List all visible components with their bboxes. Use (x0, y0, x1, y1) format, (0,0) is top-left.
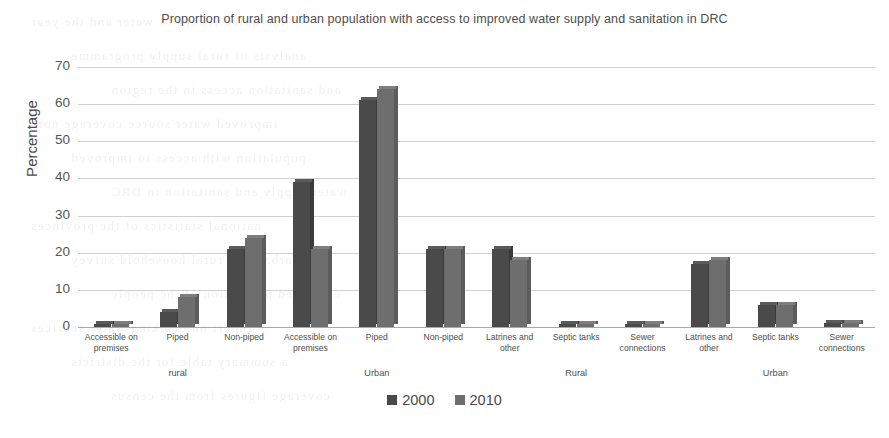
bar-top (446, 246, 463, 249)
bar-top (627, 321, 644, 324)
bar-2010 (178, 297, 195, 327)
bar-group (477, 67, 543, 327)
bar-group (211, 67, 277, 327)
x-group-label: Urban (676, 368, 875, 378)
bar-2000 (293, 182, 310, 327)
plot-area (78, 67, 875, 327)
bar-2000 (824, 323, 841, 327)
bar-face (112, 324, 129, 327)
bar-face (691, 264, 708, 327)
y-tick-label: 20 (24, 244, 70, 259)
bar-top (295, 179, 312, 182)
bar-face (709, 260, 726, 327)
x-group-label: Rural (477, 368, 676, 378)
x-tick-label: Sewer connections (809, 332, 875, 354)
bar-top (361, 97, 378, 100)
x-tick-label: Piped (344, 332, 410, 343)
bar-top (229, 246, 246, 249)
bar-2010 (377, 89, 394, 327)
bar-face (842, 323, 859, 327)
x-group-label: Urban (277, 368, 476, 378)
bar-2000 (94, 324, 111, 327)
bar-2010 (112, 324, 129, 327)
bar-2000 (691, 264, 708, 327)
bar-2010 (245, 238, 262, 327)
x-axis-category-labels: Accessible on premisesPipedNon-pipedAcce… (78, 332, 875, 372)
y-tick-label: 40 (24, 169, 70, 184)
bar-top (512, 257, 529, 260)
y-tick-label: 0 (24, 318, 70, 333)
bar-face (311, 249, 328, 327)
y-tick-label: 70 (24, 58, 70, 73)
x-tick-label: Non-piped (410, 332, 476, 343)
x-tick-label: Accessible on premises (78, 332, 144, 354)
bar-top (778, 302, 795, 305)
bars-layer (78, 67, 875, 327)
bar-top (313, 246, 330, 249)
legend-item-2000[interactable]: 2000 (387, 392, 434, 408)
legend-swatch (387, 395, 397, 405)
bar-face (776, 305, 793, 327)
bar-group (410, 67, 476, 327)
bar-2000 (492, 249, 509, 327)
bar-side (394, 86, 398, 324)
bar-side (461, 246, 465, 324)
bar-top (114, 321, 131, 324)
legend-item-2010[interactable]: 2010 (455, 392, 502, 408)
bar-side (195, 294, 199, 324)
bar-group (344, 67, 410, 327)
bar-top (760, 302, 777, 305)
bar-2010 (842, 323, 859, 327)
chart-legend: 20002010 (0, 392, 889, 408)
x-tick-label: Non-piped (211, 332, 277, 343)
y-tick-label: 50 (24, 132, 70, 147)
bar-face (492, 249, 509, 327)
y-tick-label: 10 (24, 281, 70, 296)
bar-face (227, 249, 244, 327)
x-tick-label: Piped (144, 332, 210, 343)
bar-top (579, 321, 596, 324)
x-tick-label: Latrines and other (477, 332, 543, 354)
x-tick-label: Septic tanks (742, 332, 808, 343)
bar-2000 (227, 249, 244, 327)
bar-side (328, 246, 332, 324)
bar-face (359, 100, 376, 327)
bar-group (609, 67, 675, 327)
bar-2000 (559, 324, 576, 327)
x-group-label: rural (78, 368, 277, 378)
bar-top (711, 257, 728, 260)
bar-2000 (758, 305, 775, 327)
bar-top (693, 261, 710, 264)
bar-top (379, 86, 396, 89)
bar-face (444, 249, 461, 327)
bar-top (247, 235, 264, 238)
bar-2000 (426, 249, 443, 327)
bar-face (824, 323, 841, 327)
bar-2010 (643, 324, 660, 327)
x-tick-label: Sewer connections (609, 332, 675, 354)
bar-face (510, 260, 527, 327)
bar-top (561, 321, 578, 324)
bar-chart: Proportion of rural and urban population… (0, 0, 889, 438)
bar-group (676, 67, 742, 327)
bar-side (726, 257, 730, 324)
bar-top (428, 246, 445, 249)
bar-top (494, 246, 511, 249)
bar-2010 (709, 260, 726, 327)
bar-top (96, 321, 113, 324)
bar-group (277, 67, 343, 327)
bar-face (293, 182, 310, 327)
bar-face (426, 249, 443, 327)
legend-label: 2000 (402, 392, 434, 408)
x-axis-group-labels: ruralUrbanRuralUrban (78, 368, 875, 388)
axis-baseline (78, 327, 875, 328)
bar-face (758, 305, 775, 327)
bar-2000 (160, 312, 177, 327)
bar-face (643, 324, 660, 327)
bar-2010 (510, 260, 527, 327)
bar-face (625, 324, 642, 327)
bar-2010 (776, 305, 793, 327)
legend-label: 2010 (470, 392, 502, 408)
bar-top (162, 309, 179, 312)
bar-side (793, 302, 797, 324)
